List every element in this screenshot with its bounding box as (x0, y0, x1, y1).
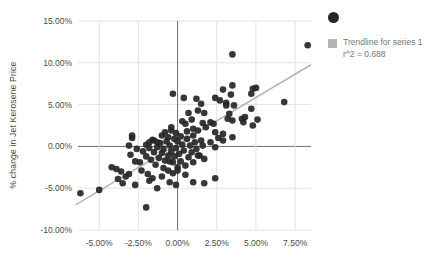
y-tick-label: 15.00% (43, 16, 72, 26)
scatter-point (201, 180, 208, 187)
scatter-point (248, 90, 255, 97)
scatter-point (152, 162, 159, 169)
scatter-point (179, 141, 186, 148)
scatter-point (193, 146, 200, 153)
scatter-point (184, 128, 191, 135)
scatter-point (229, 117, 236, 124)
scatter-chart: 15.00%10.00%5.00%0.00%-5.00%-10.00%-5.00… (0, 0, 442, 262)
scatter-point (96, 187, 103, 194)
legend-trendline-entry: Trendline for series 1 r^2 = 0.688 (326, 37, 438, 60)
scatter-point (231, 102, 238, 109)
scatter-point (217, 97, 224, 104)
x-tick-label: 0.00% (166, 238, 191, 248)
scatter-point (212, 175, 219, 182)
scatter-point (157, 140, 164, 147)
scatter-point (173, 182, 180, 189)
gridlines (78, 21, 311, 230)
legend-r2-label: r^2 = 0.688 (343, 49, 423, 61)
scatter-point (201, 110, 208, 117)
scatter-point (195, 152, 202, 159)
scatter-point (170, 159, 177, 166)
scatter-point (253, 85, 260, 92)
x-tick-label: 7.50% (283, 238, 308, 248)
y-axis-title: % change in Jet Kerosene Price (8, 62, 18, 189)
x-tick-label: 5.00% (244, 238, 269, 248)
y-tick-label: 5.00% (48, 100, 73, 110)
scatter-point (190, 126, 197, 133)
scatter-point (126, 142, 133, 149)
scatter-point (192, 139, 199, 146)
x-tick-label: -5.00% (86, 238, 113, 248)
scatter-point (250, 122, 257, 129)
scatter-point (254, 116, 261, 123)
scatter-point (170, 90, 177, 97)
scatter-point (154, 185, 161, 192)
scatter-point (179, 118, 186, 125)
scatter-point (148, 157, 155, 164)
scatter-point (240, 119, 247, 126)
legend: Trendline for series 1 r^2 = 0.688 (326, 10, 438, 60)
scatter-point (182, 172, 189, 179)
scatter-point (166, 142, 173, 149)
scatter-point (215, 135, 222, 142)
scatter-points (77, 42, 311, 211)
scatter-point (229, 134, 236, 141)
scatter-point (190, 132, 197, 139)
scatter-point (143, 204, 150, 211)
scatter-point (190, 159, 197, 166)
scatter-point (181, 147, 188, 154)
scatter-point (127, 152, 134, 159)
scatter-point (132, 182, 139, 189)
scatter-point (159, 173, 166, 180)
legend-trendline-label: Trendline for series 1 (343, 37, 423, 49)
scatter-point (199, 120, 206, 127)
scatter-point (77, 190, 84, 197)
scatter-point (281, 99, 288, 106)
scatter-point (207, 139, 214, 146)
scatter-point (129, 135, 136, 142)
scatter-point (190, 179, 197, 186)
x-tick-label: -2.50% (125, 238, 152, 248)
y-tick-label: -5.00% (45, 183, 72, 193)
scatter-point (168, 124, 175, 131)
scatter-point (119, 180, 126, 187)
scatter-point (137, 159, 144, 166)
scatter-point (118, 168, 125, 175)
scatter-point (184, 136, 191, 143)
scatter-point (195, 107, 202, 114)
scatter-point (212, 144, 219, 151)
scatter-point (126, 171, 133, 178)
scatter-point (220, 86, 227, 93)
series-point-legend-icon (328, 12, 339, 23)
y-tick-label: 10.00% (43, 58, 72, 68)
scatter-point (174, 167, 181, 174)
scatter-point (248, 106, 255, 113)
scatter-point (193, 95, 200, 102)
scatter-point (188, 116, 195, 123)
scatter-point (199, 142, 206, 149)
scatter-point (201, 156, 208, 163)
scatter-point (229, 82, 236, 89)
scatter-point (173, 130, 180, 137)
scatter-point (181, 95, 188, 102)
scatter-point (304, 42, 311, 49)
x-tick-label: 2.50% (205, 238, 230, 248)
scatter-point (134, 146, 141, 153)
scatter-point (228, 91, 235, 98)
y-tick-label: -10.00% (40, 225, 72, 235)
scatter-point (223, 102, 230, 109)
scatter-point (149, 136, 156, 143)
trendline-legend-icon (328, 39, 337, 48)
scatter-point (173, 145, 180, 152)
scatter-point (185, 110, 192, 117)
scatter-point (212, 129, 219, 136)
scatter-point (138, 167, 145, 174)
scatter-point (160, 146, 167, 153)
scatter-point (165, 167, 172, 174)
scatter-point (210, 121, 217, 128)
scatter-point (198, 101, 205, 108)
scatter-point (149, 175, 156, 182)
y-tick-label: 0.00% (48, 141, 73, 151)
scatter-point (166, 179, 173, 186)
scatter-point (182, 162, 189, 169)
